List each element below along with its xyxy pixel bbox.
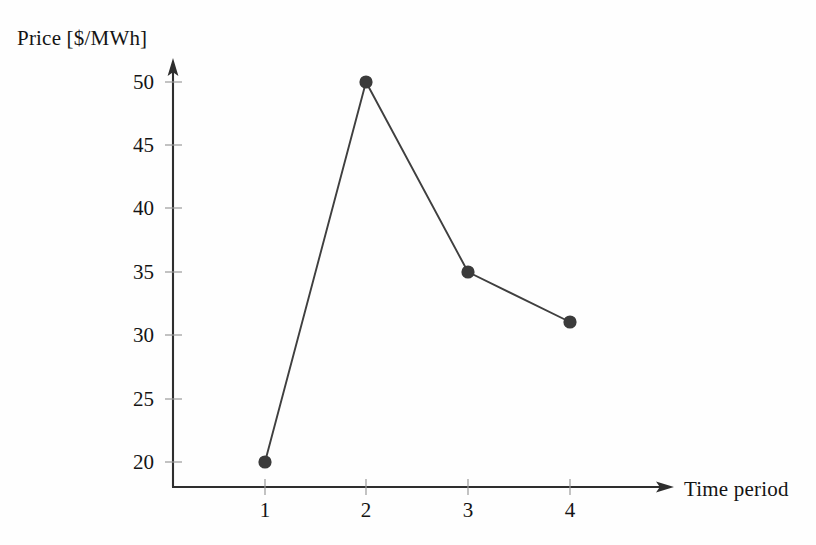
data-point-marker[interactable] (359, 75, 372, 88)
data-point-marker[interactable] (563, 315, 576, 328)
y-tick-label-50: 50 (108, 70, 154, 95)
y-tick-label-45: 45 (108, 133, 154, 158)
y-tick-label-35: 35 (108, 260, 154, 285)
x-tick-label-4: 4 (555, 498, 585, 523)
x-tick-label-3: 3 (453, 498, 483, 523)
x-tick-label-1: 1 (250, 498, 280, 523)
y-tick-label-30: 30 (108, 323, 154, 348)
y-tick-label-40: 40 (108, 196, 154, 221)
data-point-marker[interactable] (461, 265, 474, 278)
price-time-period-line-chart: Price [$/MWh] Time period 50 45 40 35 30… (0, 0, 816, 545)
x-axis-title: Time period (684, 477, 789, 502)
y-tick-label-20: 20 (108, 450, 154, 475)
y-tick-label-25: 25 (108, 387, 154, 412)
x-tick-label-2: 2 (351, 498, 381, 523)
price-series-markers (258, 75, 576, 468)
price-series-line (265, 82, 570, 462)
y-axis-title: Price [$/MWh] (17, 26, 147, 51)
x-axis (172, 482, 674, 493)
data-point-marker[interactable] (258, 455, 271, 468)
